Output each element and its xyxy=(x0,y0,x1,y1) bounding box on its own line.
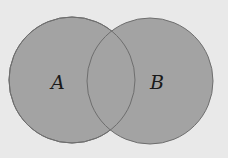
set-a-label: A xyxy=(49,71,65,93)
venn-diagram: A B xyxy=(0,0,228,158)
set-b-label: B xyxy=(149,71,164,93)
